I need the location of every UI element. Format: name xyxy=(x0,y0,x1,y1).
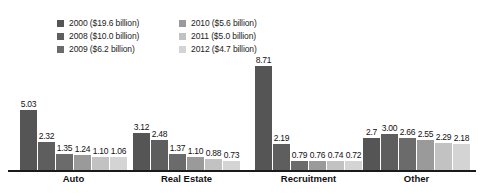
bar-rect[interactable] xyxy=(273,144,290,170)
bar-value-label: 1.06 xyxy=(111,147,127,156)
bar[interactable]: 0.79 xyxy=(291,60,308,170)
bar-value-label: 5.03 xyxy=(21,100,37,109)
bar-rect[interactable] xyxy=(453,144,470,170)
bar-group: 2.73.002.662.552.292.18 xyxy=(363,60,470,170)
bar-value-label: 0.73 xyxy=(224,151,240,160)
legend-swatch-2012 xyxy=(179,46,186,53)
bar[interactable]: 0.74 xyxy=(327,60,344,170)
bar[interactable]: 3.00 xyxy=(381,60,398,170)
bar-rect[interactable] xyxy=(381,134,398,170)
bar-chart: 2000 ($19.6 billion) 2010 ($5.6 billion)… xyxy=(0,0,484,193)
legend-item: 2008 ($10.0 billion) xyxy=(57,30,167,43)
bar[interactable]: 1.10 xyxy=(187,60,204,170)
legend-label: 2000 ($19.6 billion) xyxy=(69,19,139,28)
bar[interactable]: 2.19 xyxy=(273,60,290,170)
bar-rect[interactable] xyxy=(255,66,272,170)
bar[interactable]: 0.88 xyxy=(205,60,222,170)
bar-rect[interactable] xyxy=(187,157,204,170)
bar[interactable]: 2.48 xyxy=(151,60,168,170)
bar[interactable]: 0.76 xyxy=(309,60,326,170)
bar[interactable]: 0.72 xyxy=(345,60,362,170)
bar[interactable]: 0.73 xyxy=(223,60,240,170)
legend-item: 2012 ($4.7 billion) xyxy=(179,43,289,56)
bar-value-label: 2.7 xyxy=(366,128,377,137)
bar[interactable]: 1.35 xyxy=(56,60,73,170)
bar-rect[interactable] xyxy=(291,161,308,170)
category-label: Auto xyxy=(63,173,85,184)
legend-swatch-2011 xyxy=(179,33,186,40)
bar-rect[interactable] xyxy=(345,161,362,170)
legend-label: 2012 ($4.7 billion) xyxy=(191,45,257,54)
bar-rect[interactable] xyxy=(133,133,150,170)
category-label: Real Estate xyxy=(161,173,212,184)
bar-rect[interactable] xyxy=(309,161,326,170)
bar[interactable]: 8.71 xyxy=(255,60,272,170)
bar[interactable]: 2.32 xyxy=(38,60,55,170)
bar-rect[interactable] xyxy=(110,157,127,170)
legend-label: 2010 ($5.6 billion) xyxy=(191,19,257,28)
bar-value-label: 2.19 xyxy=(274,134,290,143)
bar-value-label: 0.88 xyxy=(206,149,222,158)
legend-swatch-2010 xyxy=(179,20,186,27)
bar[interactable]: 5.03 xyxy=(20,60,37,170)
bar-rect[interactable] xyxy=(435,143,452,170)
x-axis-baseline xyxy=(8,170,476,172)
bar[interactable]: 1.24 xyxy=(74,60,91,170)
bar[interactable]: 1.37 xyxy=(169,60,186,170)
bar-rect[interactable] xyxy=(417,140,434,170)
bar-group: 8.712.190.790.760.740.72 xyxy=(255,60,362,170)
category-label: Recruitment xyxy=(281,173,336,184)
bar-rect[interactable] xyxy=(327,161,344,170)
bar-value-label: 3.00 xyxy=(382,124,398,133)
bar-value-label: 1.37 xyxy=(170,144,186,153)
bar[interactable]: 1.06 xyxy=(110,60,127,170)
bar-group: 3.122.481.371.100.880.73 xyxy=(133,60,240,170)
legend-swatch-2009 xyxy=(57,46,64,53)
legend-label: 2008 ($10.0 billion) xyxy=(69,32,139,41)
bar-value-label: 3.12 xyxy=(134,123,150,132)
bar[interactable]: 2.29 xyxy=(435,60,452,170)
bar-value-label: 0.79 xyxy=(292,151,308,160)
bar-rect[interactable] xyxy=(20,110,37,170)
bar-value-label: 2.66 xyxy=(400,128,416,137)
bar-value-label: 8.71 xyxy=(256,56,272,65)
bar-value-label: 2.18 xyxy=(454,134,470,143)
category-axis-labels: AutoReal EstateRecruitmentOther xyxy=(8,173,476,187)
bar[interactable]: 3.12 xyxy=(133,60,150,170)
legend-swatch-2008 xyxy=(57,33,64,40)
bar-value-label: 2.55 xyxy=(418,130,434,139)
bar-rect[interactable] xyxy=(151,140,168,170)
bar-value-label: 1.10 xyxy=(93,147,109,156)
bar-value-label: 1.35 xyxy=(57,144,73,153)
bar-value-label: 1.10 xyxy=(188,147,204,156)
bar-rect[interactable] xyxy=(363,138,380,170)
legend-label: 2011 ($5.0 billion) xyxy=(191,32,256,41)
legend-item: 2010 ($5.6 billion) xyxy=(179,17,289,30)
bar-value-label: 2.48 xyxy=(152,130,168,139)
bar[interactable]: 2.18 xyxy=(453,60,470,170)
bar[interactable]: 2.66 xyxy=(399,60,416,170)
legend-item: 2000 ($19.6 billion) xyxy=(57,17,167,30)
legend-label: 2009 ($6.2 billion) xyxy=(69,45,135,54)
chart-legend: 2000 ($19.6 billion) 2010 ($5.6 billion)… xyxy=(57,17,297,56)
bar-rect[interactable] xyxy=(38,142,55,170)
bar[interactable]: 1.10 xyxy=(92,60,109,170)
bar-value-label: 2.29 xyxy=(436,133,452,142)
bar[interactable]: 2.7 xyxy=(363,60,380,170)
bar-group: 5.032.321.351.241.101.06 xyxy=(20,60,127,170)
bar-value-label: 0.76 xyxy=(310,151,326,160)
bar-rect[interactable] xyxy=(92,157,109,170)
bar[interactable]: 2.55 xyxy=(417,60,434,170)
category-label: Other xyxy=(404,173,429,184)
legend-swatch-2000 xyxy=(57,20,64,27)
legend-item: 2011 ($5.0 billion) xyxy=(179,30,289,43)
bar-rect[interactable] xyxy=(399,138,416,170)
bar-rect[interactable] xyxy=(74,155,91,170)
bar-rect[interactable] xyxy=(223,161,240,170)
bar-rect[interactable] xyxy=(205,159,222,170)
bar-value-label: 0.74 xyxy=(328,151,344,160)
bar-rect[interactable] xyxy=(169,154,186,170)
legend-item: 2009 ($6.2 billion) xyxy=(57,43,167,56)
bar-value-label: 0.72 xyxy=(346,151,362,160)
bar-rect[interactable] xyxy=(56,154,73,170)
